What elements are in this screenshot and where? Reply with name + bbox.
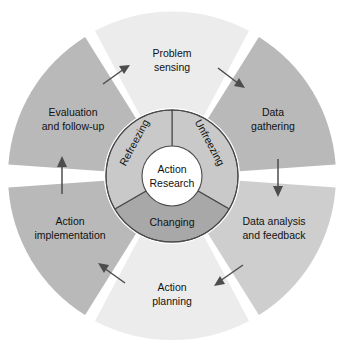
outer-label-action-implementation-line1: Action (55, 215, 84, 227)
outer-label-evaluation-line1: Evaluation (48, 106, 97, 118)
outer-label-problem-sensing-line1: Problem (152, 47, 191, 59)
action-research-wheel-diagram: Problem sensing Data gathering Data anal… (0, 0, 345, 347)
outer-label-data-analysis-line2: and feedback (242, 229, 306, 241)
outer-label-data-gathering-line2: gathering (251, 120, 295, 132)
outer-label-action-planning-line2: planning (152, 295, 192, 307)
outer-label-data-gathering-line1: Data (262, 106, 284, 118)
outer-label-evaluation-line2: and follow-up (42, 120, 105, 132)
center-hub-label-line2: Research (150, 177, 195, 189)
inner-label-changing: Changing (150, 216, 195, 228)
outer-label-action-planning-line1: Action (157, 281, 186, 293)
outer-label-data-analysis-line1: Data analysis (242, 215, 305, 227)
center-hub-label-line1: Action (157, 163, 186, 175)
outer-label-action-implementation-line2: implementation (34, 229, 105, 241)
wheel-svg: Problem sensing Data gathering Data anal… (0, 0, 345, 347)
outer-label-problem-sensing-line2: sensing (154, 61, 190, 73)
